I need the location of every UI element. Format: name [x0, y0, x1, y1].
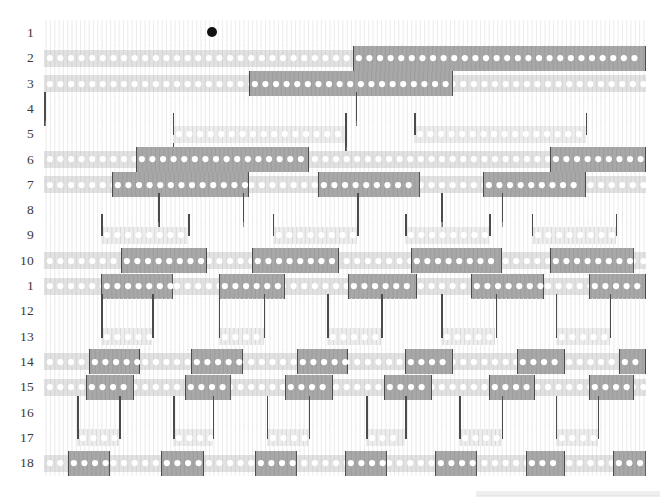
active-block [489, 375, 534, 400]
row-band [441, 328, 495, 345]
row-label-10: 10 [0, 254, 34, 268]
active-block [252, 248, 339, 273]
subdivision-stem [496, 316, 498, 338]
subdivision-stem [273, 214, 275, 236]
subdivision-stem [119, 417, 121, 439]
row-band [101, 227, 188, 244]
subdivision-stem [502, 417, 504, 439]
row-label-9: 9 [0, 229, 34, 243]
row-band [173, 429, 212, 446]
row-band [267, 429, 309, 446]
subdivision-stem [414, 113, 416, 135]
row-label-15: 15 [0, 380, 34, 394]
pattern-plot-area [44, 0, 646, 500]
active-block [255, 451, 297, 476]
active-block [219, 274, 285, 299]
active-block [101, 274, 173, 299]
row-label-1: 1 [0, 26, 34, 40]
row-label-3: 3 [0, 77, 34, 91]
subdivision-stem [405, 417, 407, 439]
subdivision-stem [219, 316, 221, 338]
subdivision-stem [357, 214, 359, 236]
active-block [89, 349, 140, 374]
subdivision-stem [502, 193, 504, 227]
active-block [411, 248, 501, 273]
row-band [273, 227, 357, 244]
active-block [435, 451, 477, 476]
subdivision-stem [173, 113, 175, 135]
row-band [327, 328, 381, 345]
subdivision-stem [610, 316, 612, 338]
active-block [589, 274, 646, 299]
active-block [526, 451, 565, 476]
row-band [414, 126, 586, 143]
row-band [459, 429, 501, 446]
active-block [517, 349, 565, 374]
row-label-16: 16 [0, 406, 34, 420]
subdivision-stem [405, 214, 407, 236]
subdivision-stem [598, 417, 600, 439]
row-band [173, 126, 345, 143]
active-block [613, 451, 646, 476]
row-band [44, 379, 646, 396]
subdivision-stem [532, 214, 534, 236]
subdivision-stem [213, 417, 215, 439]
subdivision-stem [441, 316, 443, 338]
row-label-2: 2 [0, 52, 34, 66]
active-block [136, 147, 309, 172]
subdivision-stem [586, 113, 588, 135]
subdivision-stem [489, 214, 491, 236]
row-label-12: 12 [0, 305, 34, 319]
row-label-17: 17 [0, 431, 34, 445]
subdivision-stem [44, 92, 46, 126]
active-block [345, 451, 387, 476]
active-block [318, 172, 420, 197]
row-band [556, 328, 610, 345]
active-block [86, 375, 134, 400]
active-block [471, 274, 543, 299]
active-block [384, 375, 432, 400]
subdivision-stem [366, 417, 368, 439]
row-label-8: 8 [0, 203, 34, 217]
subdivision-stem [616, 214, 618, 236]
active-block [619, 349, 646, 374]
row-label-5: 5 [0, 127, 34, 141]
subdivision-stem [327, 316, 329, 338]
subdivision-stem [77, 417, 79, 439]
subdivision-stem [381, 316, 383, 338]
subdivision-stem [345, 113, 347, 135]
active-block [191, 349, 242, 374]
active-block [405, 349, 453, 374]
row-label-11: 1 [0, 279, 34, 293]
active-block [483, 172, 585, 197]
active-block [161, 451, 203, 476]
row-label-14: 14 [0, 355, 34, 369]
active-block [550, 147, 646, 172]
onset-marker-dot [207, 27, 217, 37]
subdivision-stem [556, 417, 558, 439]
subdivision-stem [152, 316, 154, 338]
row-label-18: 18 [0, 456, 34, 470]
subdivision-stem [188, 214, 190, 236]
subdivision-stem [158, 193, 160, 227]
row-band [556, 429, 598, 446]
row-label-13: 13 [0, 330, 34, 344]
active-block [249, 71, 454, 96]
comb-hatch [44, 20, 646, 46]
subdivision-stem [173, 417, 175, 439]
active-block [185, 375, 230, 400]
subdivision-stem [309, 417, 311, 439]
comb-hatch [44, 197, 646, 223]
subdivision-stem [101, 214, 103, 236]
row-label-6: 6 [0, 153, 34, 167]
subdivision-stem [243, 193, 245, 227]
subdivision-stem [556, 316, 558, 338]
active-block [121, 248, 206, 273]
row-label-4: 4 [0, 102, 34, 116]
row-band [405, 227, 489, 244]
row-band [101, 328, 152, 345]
subdivision-stem [356, 92, 358, 126]
active-block [550, 248, 634, 273]
row-band [366, 429, 405, 446]
figure-canvas: 12345678910112131415161718 [0, 0, 666, 500]
